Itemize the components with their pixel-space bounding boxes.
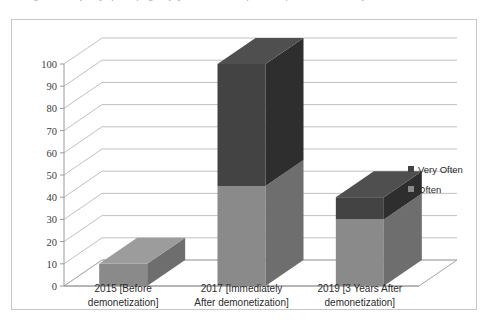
x-axis-category-label-line: After demonetization]: [182, 296, 302, 310]
grid-depth-line: [64, 105, 102, 131]
grid-depth-line: [64, 149, 102, 175]
grid-depth-line: [64, 193, 102, 219]
bar-segment-side: [266, 38, 304, 186]
x-axis-category-label: 2015 [Beforedemonetization]: [63, 282, 183, 309]
grid-depth-line: [64, 238, 102, 264]
plot-area: [12, 20, 476, 309]
grid-depth-line: [64, 127, 102, 153]
legend-item[interactable]: Often: [408, 181, 478, 197]
chart-frame: 0102030405060708090100 2015 [Beforedemon…: [11, 19, 477, 310]
legend-item-label: Very Often: [418, 164, 463, 175]
x-axis-category-label-line: 2017 [Immediately: [182, 282, 302, 296]
plot-svg: [12, 20, 476, 309]
grid-depth-line: [64, 82, 102, 108]
x-axis-category-label: 2017 [ImmediatelyAfter demonetization]: [182, 282, 302, 309]
x-axis-category-label-line: demonetization]: [300, 296, 420, 310]
grid-depth-line: [64, 38, 102, 64]
x-axis-category-labels: 2015 [Beforedemonetization]2017 [Immedia…: [12, 268, 476, 310]
bar-segment-front: [336, 197, 384, 219]
figure-caption-text: Figure 2: Frequency of use of digital pa…: [26, 0, 466, 2]
legend-item-label: Often: [418, 184, 441, 195]
bar-segment-front: [218, 64, 266, 186]
legend-swatch-icon: [408, 166, 414, 172]
legend-item[interactable]: Very Often: [408, 161, 478, 177]
grid-depth-line: [64, 216, 102, 242]
chart-legend: Very OftenOften: [408, 161, 478, 201]
figure-caption: Figure 2: Frequency of use of digital pa…: [0, 0, 489, 11]
chart-page: Figure 2: Frequency of use of digital pa…: [0, 0, 489, 326]
x-axis-category-label: 2019 [3 Years Afterdemonetization]: [300, 282, 420, 309]
x-axis-category-label-line: demonetization]: [63, 296, 183, 310]
bar-column: [218, 38, 304, 286]
x-axis-category-label-line: 2015 [Before: [63, 282, 183, 296]
legend-swatch-icon: [408, 186, 414, 192]
grid-depth-line: [64, 60, 102, 86]
grid-depth-line: [64, 171, 102, 197]
x-axis-category-label-line: 2019 [3 Years After: [300, 282, 420, 296]
